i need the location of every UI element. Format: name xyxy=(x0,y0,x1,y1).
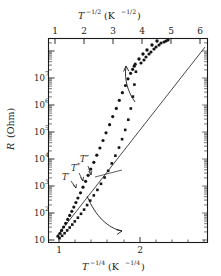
annotation-labels: T′ T * T″ xyxy=(62,154,90,182)
top-axis-unit-open: (K xyxy=(104,10,116,21)
top-axis-exponent: −1/2 xyxy=(86,8,101,15)
y-tick-exponent: 2 xyxy=(45,205,49,212)
label-T-double-prime: T″ xyxy=(80,154,90,164)
top-tick-label: 3 xyxy=(110,26,116,36)
bottom-axis-title: T −1/4 (K −1/4 ) xyxy=(82,259,145,272)
label-T-prime: T′ xyxy=(62,172,70,182)
y-tick-label: 10 xyxy=(34,73,45,83)
bottom-axis-unit-exponent: −1/4 xyxy=(125,259,140,266)
y-tick-exponent: 5 xyxy=(45,124,49,131)
top-axis-title: T −1/2 (K −1/2 ) xyxy=(78,8,141,21)
series-upper-branch-trail xyxy=(137,39,158,60)
bottom-axis-unit-open: (K xyxy=(108,261,120,272)
y-tick-label: 10 xyxy=(34,127,45,137)
bottom-axis-ticks xyxy=(59,237,140,243)
top-tick-label: 1 xyxy=(52,26,58,36)
left-axis-title: R (Ohm) xyxy=(5,108,16,151)
top-axis-ticks xyxy=(55,39,200,45)
bottom-tick-label: 2 xyxy=(137,245,143,255)
y-tick-exponent: 6 xyxy=(45,97,49,104)
figure-panel: T −1/2 (K −1/2 ) 1 2 3 4 5 6 xyxy=(0,0,221,276)
y-tick-label: 10 xyxy=(34,154,45,164)
fit-line-upper xyxy=(57,47,205,236)
y-axis-variable: R xyxy=(5,143,16,151)
top-axis-unit-close: ) xyxy=(137,10,141,21)
series-merge-cloud xyxy=(139,38,169,64)
y-tick-label: 10 xyxy=(34,181,45,191)
y-tick-exponent: 3 xyxy=(45,178,49,185)
left-tick-labels: 10 10 2 10 3 10 4 10 5 10 6 10 7 xyxy=(34,70,49,245)
bottom-axis-unit-close: ) xyxy=(141,261,145,272)
top-axis-unit-exponent: −1/2 xyxy=(121,8,136,15)
top-tick-label: 5 xyxy=(168,26,174,36)
series-upper-branch xyxy=(56,63,136,238)
top-tick-label: 6 xyxy=(197,26,203,36)
y-tick-exponent: 4 xyxy=(45,151,49,158)
top-tick-label: 2 xyxy=(81,26,87,36)
y-tick-label: 10 xyxy=(34,208,45,218)
y-tick-label: 10 xyxy=(34,235,45,245)
top-tick-label: 4 xyxy=(139,26,145,36)
bottom-tick-labels: 1 2 xyxy=(56,245,143,255)
top-axis-variable: T xyxy=(78,10,85,21)
bottom-tick-label: 1 xyxy=(56,245,62,255)
y-axis-unit: (Ohm) xyxy=(5,108,16,138)
bottom-axis-variable: T xyxy=(82,261,89,272)
right-axis-ticks xyxy=(202,43,208,240)
top-tick-labels: 1 2 3 4 5 6 xyxy=(52,26,203,36)
plot-svg: T −1/2 (K −1/2 ) 1 2 3 4 5 6 xyxy=(0,0,221,276)
y-tick-label: 10 xyxy=(34,100,45,110)
arrow-to-bottom-axis xyxy=(87,196,122,234)
y-tick-exponent: 7 xyxy=(45,70,49,77)
bottom-axis-exponent: −1/4 xyxy=(90,259,105,266)
